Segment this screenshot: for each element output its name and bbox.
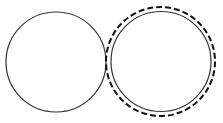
left-circle bbox=[6, 12, 106, 112]
two-circles-diagram bbox=[0, 0, 223, 123]
right-dashed-circle bbox=[106, 7, 215, 116]
diagram-canvas bbox=[0, 0, 223, 123]
right-circle bbox=[111, 12, 211, 112]
